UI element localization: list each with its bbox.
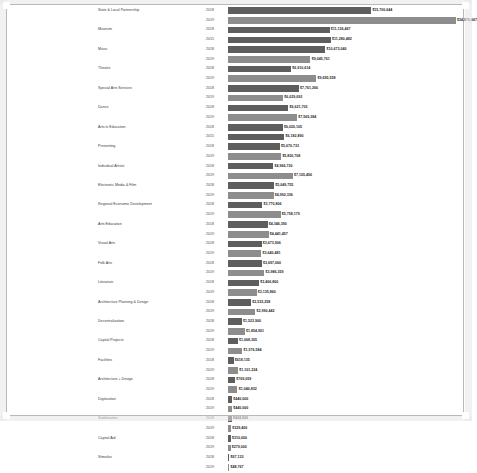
bar-value-label: $310,000 — [232, 435, 247, 442]
bar-track: $10,673,040 — [228, 46, 458, 53]
bar-track: $618,135 — [228, 357, 458, 364]
chart-row: Theatre2018$6,910,614 — [10, 64, 460, 74]
bar-track: $2,532,258 — [228, 299, 458, 306]
chart-row: 2019$24,976,667 — [10, 16, 460, 26]
chart-row: 2019$9,695,558 — [10, 74, 460, 84]
bar-track: $5,758,179 — [228, 211, 458, 218]
bar-value-label: $7,105,456 — [294, 172, 312, 179]
bar-value-label: $5,049,755 — [275, 182, 293, 189]
chart-row: 2015$11,280,482 — [10, 35, 460, 45]
bar-track: $310,000 — [228, 435, 458, 442]
chart-row: Arts Education2018$4,346,390 — [10, 220, 460, 230]
chart-row: 2015$6,182,890 — [10, 132, 460, 142]
bar-value-label: $3,770,806 — [264, 201, 282, 208]
bar — [228, 75, 316, 82]
bar-track: $9,695,558 — [228, 75, 458, 82]
bar — [228, 192, 274, 199]
category-label: Dance — [98, 103, 190, 113]
year-label: 2019 — [206, 74, 222, 84]
bar-track: $1,101,224 — [228, 367, 458, 374]
chart-row: Visual Arts2018$3,673,906 — [10, 239, 460, 249]
chart-row: Digitization2018$440,000 — [10, 395, 460, 405]
bar-track: $4,966,720 — [228, 163, 458, 170]
bar-value-label: $4,441,457 — [270, 231, 288, 238]
bar-value-label: $1,523,900 — [243, 318, 261, 325]
bar-value-label: $7,569,384 — [298, 114, 316, 121]
bar-track: $3,697,060 — [228, 260, 458, 267]
chart-row: 2019$4,441,457 — [10, 230, 460, 240]
chart-row: Architecture + Design2018$769,059 — [10, 375, 460, 385]
year-label: 2018 — [206, 395, 222, 405]
category-label: Arts Education — [98, 220, 190, 230]
bar-value-label: $6,029,093 — [284, 94, 302, 101]
category-label: Folk Arts — [98, 259, 190, 269]
bar — [228, 318, 242, 325]
bar-track: $1,854,901 — [228, 328, 458, 335]
category-label: Capital Aid — [98, 434, 190, 444]
bar — [228, 7, 371, 14]
page-corner-bottom-left — [3, 412, 10, 419]
year-label: 2019 — [206, 443, 222, 453]
page-edge-bottom — [0, 416, 472, 421]
year-label: 2018 — [206, 356, 222, 366]
year-label: 2019 — [206, 327, 222, 337]
bar — [228, 309, 255, 316]
bar — [228, 114, 297, 121]
chart-row: 2019$279,000 — [10, 443, 460, 453]
bar-value-label: $3,640,481 — [262, 250, 280, 257]
bar — [228, 299, 251, 306]
year-label: 2018 — [206, 336, 222, 346]
category-label: Individual Artists — [98, 162, 190, 172]
category-label: Digitization — [98, 395, 190, 405]
bar — [228, 289, 257, 296]
bar-track: $3,640,481 — [228, 250, 458, 257]
chart-row: Decentralization2018$1,523,900 — [10, 317, 460, 327]
bar-value-label: $1,576,584 — [244, 347, 262, 354]
year-label: 2018 — [206, 434, 222, 444]
bar — [228, 95, 283, 102]
bar — [228, 124, 283, 131]
category-label: Electronic Media & Film — [98, 181, 190, 191]
bar-track: $5,670,733 — [228, 143, 458, 150]
year-label: 2018 — [206, 123, 222, 133]
bar-value-label: $1,068,305 — [239, 337, 257, 344]
year-label: 2018 — [206, 317, 222, 327]
year-label: 2019 — [206, 230, 222, 240]
category-label: Literature — [98, 278, 190, 288]
chart-row: 2019$7,105,456 — [10, 171, 460, 181]
year-label: 2018 — [206, 162, 222, 172]
bar-track: $3,986,359 — [228, 270, 458, 277]
bar — [228, 260, 262, 267]
year-label: 2019 — [206, 268, 222, 278]
year-label: 2018 — [206, 220, 222, 230]
bar — [228, 396, 232, 403]
chart-row: Literature2018$3,406,800 — [10, 278, 460, 288]
category-label: Presenting — [98, 142, 190, 152]
year-label: 2018 — [206, 278, 222, 288]
bar-track: $67,133 — [228, 454, 458, 461]
year-label: 2019 — [206, 16, 222, 26]
page-edge-left — [0, 0, 6, 421]
page-edge-right — [465, 0, 472, 421]
chart-row: 2019$1,576,584 — [10, 346, 460, 356]
chart-row: Special Arts Services2018$7,761,266 — [10, 84, 460, 94]
chart-row: 2019$3,986,359 — [10, 268, 460, 278]
bar — [228, 425, 231, 432]
bar-value-label: $1,854,901 — [246, 328, 264, 335]
bar-track: $11,280,482 — [228, 37, 458, 44]
year-label: 2018 — [206, 64, 222, 74]
year-label: 2019 — [206, 385, 222, 395]
bar — [228, 66, 291, 73]
category-label: Architecture + Design — [98, 375, 190, 385]
bar — [228, 202, 262, 209]
bar — [228, 435, 231, 442]
bar-track: $11,136,467 — [228, 27, 458, 34]
year-label: 2019 — [206, 55, 222, 65]
chart-row: 2019$440,000 — [10, 404, 460, 414]
chart-row: 2019$4,992,336 — [10, 191, 460, 201]
bar-value-label: $279,000 — [232, 444, 247, 451]
bar-track: $5,830,708 — [228, 153, 458, 160]
chart-rows: State & Local Partnership2018$15,700,644… — [10, 6, 460, 473]
bar-value-label: $15,700,644 — [372, 7, 392, 14]
